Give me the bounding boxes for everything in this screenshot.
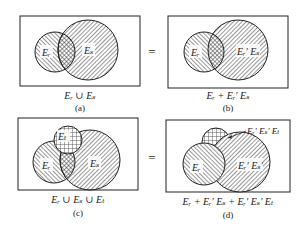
panel-b-caption: Eᵣ + Eᵣ′ Eₛ [205, 90, 249, 101]
panel-b: Eᵣ Eᵣ′ Eₛ Eᵣ + Eᵣ′ Eₛ (b) [168, 16, 288, 113]
region-label: Eᵣ [191, 162, 201, 173]
panel-c: Eₜ Eᵣ Eₛ Eᵣ ∪ Eₛ ∪ Eₜ (c) [18, 118, 138, 218]
venn-diagram-figure: Eᵣ Eₛ Eᵣ ∪ Eₛ (a) = Eᵣ Eᵣ′ Eₛ Eᵣ + Eᵣ′ E… [0, 0, 303, 231]
panel-a-sublabel: (a) [75, 103, 85, 113]
panel-a-caption: Eᵣ ∪ Eₛ [63, 90, 95, 101]
panel-a: Eᵣ Eₛ Eᵣ ∪ Eₛ (a) [20, 16, 140, 113]
panel-d: Eᵣ Eᵣ′ Eₛ′ Eᵣ′ Eₛ′ Eₜ Eᵣ + Eᵣ′ Eₛ + Eᵣ′ … [166, 120, 290, 220]
region-label: Eᵣ′ Eₛ′ [237, 160, 264, 171]
region-label: Eₛ [89, 158, 99, 169]
panel-d-sublabel: (d) [223, 210, 234, 220]
region-label: Eₛ [83, 45, 93, 56]
region-label: Eₜ [57, 131, 67, 142]
region-label: Eᵣ [41, 160, 51, 171]
region-label: Eᵣ [41, 47, 51, 58]
callout-label: Eᵣ′ Eₛ′ Eₜ [246, 126, 280, 136]
panel-b-sublabel: (b) [223, 103, 234, 113]
panel-c-caption: Eᵣ ∪ Eₛ ∪ Eₜ [50, 194, 105, 205]
set-r-circle [183, 143, 225, 185]
equals-sign: = [148, 150, 155, 165]
panel-c-sublabel: (c) [73, 208, 83, 218]
panel-d-caption: Eᵣ + Eᵣ′ Eₛ + Eᵣ′ Eₛ′ Eₜ [182, 196, 274, 207]
equals-sign: = [148, 44, 155, 59]
region-label: Eᵣ′ Eₛ [236, 46, 260, 57]
region-label: Eᵣ [190, 47, 200, 58]
